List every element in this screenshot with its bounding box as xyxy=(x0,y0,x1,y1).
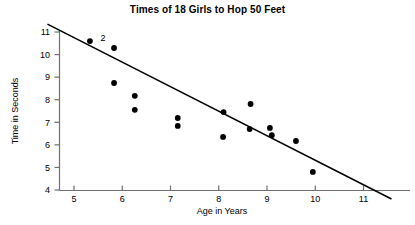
data-point xyxy=(111,80,117,86)
y-tick-label: 8 xyxy=(45,95,50,105)
x-tick-label: 5 xyxy=(71,194,76,204)
x-tick-label: 9 xyxy=(264,194,269,204)
y-axis-ticks: 4567891011 xyxy=(40,27,60,195)
data-point xyxy=(310,169,316,175)
point-count-annotation: 2 xyxy=(101,33,106,43)
scatter-chart: Times of 18 Girls to Hop 50 Feet 4567891… xyxy=(0,0,415,225)
data-point xyxy=(247,126,253,132)
x-tick-label: 8 xyxy=(216,194,221,204)
x-tick-label: 7 xyxy=(168,194,173,204)
x-tick-label: 6 xyxy=(120,194,125,204)
trend-line xyxy=(47,24,391,199)
x-axis-ticks: 567891011 xyxy=(71,186,368,205)
data-point xyxy=(132,93,138,99)
data-point xyxy=(111,45,117,51)
data-point xyxy=(221,109,227,115)
data-point xyxy=(267,125,273,131)
data-points: 2 xyxy=(87,33,316,175)
y-tick-label: 11 xyxy=(41,27,50,37)
y-tick-label: 10 xyxy=(40,50,50,60)
data-point xyxy=(220,134,226,140)
axes xyxy=(60,31,411,191)
y-tick-label: 5 xyxy=(45,163,50,173)
plot-area: 4567891011 567891011 2 Age in Years Time… xyxy=(0,0,415,225)
data-point xyxy=(132,107,138,113)
y-tick-label: 4 xyxy=(45,185,50,195)
data-point xyxy=(175,115,181,121)
data-point xyxy=(269,132,275,138)
y-tick-label: 6 xyxy=(45,140,50,150)
data-point xyxy=(87,38,93,44)
data-point xyxy=(293,138,299,144)
y-tick-label: 9 xyxy=(45,72,50,82)
x-tick-label: 11 xyxy=(359,194,368,204)
data-point xyxy=(248,101,254,107)
y-tick-label: 7 xyxy=(45,118,50,128)
y-axis-label: Time in Seconds xyxy=(10,77,20,144)
x-tick-label: 10 xyxy=(310,194,320,204)
trend-line-segment xyxy=(47,24,391,199)
x-axis-label: Age in Years xyxy=(197,206,248,216)
data-point xyxy=(175,123,181,129)
